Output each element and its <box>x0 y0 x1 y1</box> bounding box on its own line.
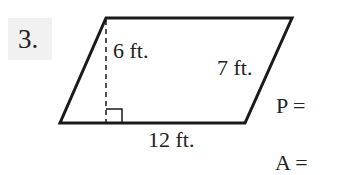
perimeter-prompt: P = <box>276 95 305 117</box>
right-angle-marker <box>106 109 122 122</box>
base-label: 12 ft. <box>148 129 194 151</box>
side-label: 7 ft. <box>217 57 252 79</box>
parallelogram-outline <box>60 18 292 123</box>
height-label: 6 ft. <box>113 40 148 62</box>
area-prompt: A = <box>275 152 308 174</box>
